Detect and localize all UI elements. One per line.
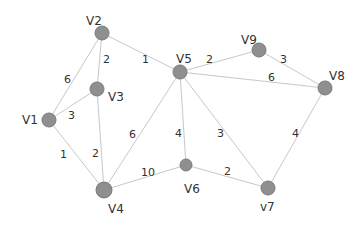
edge-v5-v8 xyxy=(180,72,325,88)
node-v3 xyxy=(90,82,104,96)
edge-weight-label: 3 xyxy=(280,53,287,66)
edge-weight-label: 10 xyxy=(141,166,155,179)
node-label: V2 xyxy=(86,14,102,28)
edge-weight-label: 6 xyxy=(129,128,136,141)
edge-weight-label: 2 xyxy=(206,53,213,66)
edge-v5-v6 xyxy=(180,72,186,165)
edge-v3-v4 xyxy=(97,89,104,190)
edge-weight-label: 2 xyxy=(103,53,110,66)
node-label: V8 xyxy=(329,69,345,83)
node-label: V5 xyxy=(176,52,192,66)
node-v8 xyxy=(318,81,332,95)
edge-weight-label: 6 xyxy=(64,73,71,86)
node-v4 xyxy=(96,182,112,198)
edge-v2-v5 xyxy=(102,33,180,72)
node-v1 xyxy=(42,113,56,127)
graph-canvas: 6312126104326324 V1V2V3V4V5V6v7V8V9 xyxy=(0,0,361,231)
edge-v1-v2 xyxy=(49,33,102,120)
node-label: v7 xyxy=(260,200,275,214)
edge-v2-v3 xyxy=(97,33,102,89)
node-v2 xyxy=(95,26,109,40)
edge-weight-label: 2 xyxy=(92,147,99,160)
edge-weight-label: 1 xyxy=(60,148,67,161)
edge-weight-label: 4 xyxy=(292,127,299,140)
node-v7 xyxy=(261,181,275,195)
edge-weight-label: 2 xyxy=(224,165,231,178)
edge-weight-label: 1 xyxy=(142,53,149,66)
node-v5 xyxy=(173,65,187,79)
edge-weight-label: 3 xyxy=(217,127,224,140)
node-label: V1 xyxy=(22,113,38,127)
edge-weight-label: 6 xyxy=(268,71,275,84)
node-label: V4 xyxy=(108,202,124,216)
node-label: V9 xyxy=(241,33,257,47)
edge-v5-v9 xyxy=(180,50,259,72)
node-label: V3 xyxy=(108,90,124,104)
edge-weight-label: 4 xyxy=(175,127,182,140)
node-v6 xyxy=(180,159,192,171)
edge-weight-label: 3 xyxy=(68,109,75,122)
node-label: V6 xyxy=(184,182,200,196)
